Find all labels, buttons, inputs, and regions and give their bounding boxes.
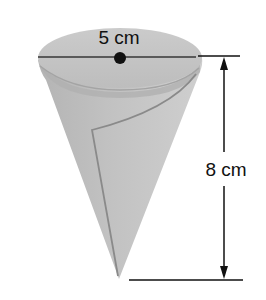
center-dot [114,52,126,64]
cone-body [38,58,202,279]
arrow-down-icon [220,266,228,279]
height-label: 8 cm [205,159,246,180]
arrow-up-icon [220,57,228,70]
diameter-label: 5 cm [98,27,139,48]
cone-diagram: 5 cm 8 cm [0,0,266,300]
